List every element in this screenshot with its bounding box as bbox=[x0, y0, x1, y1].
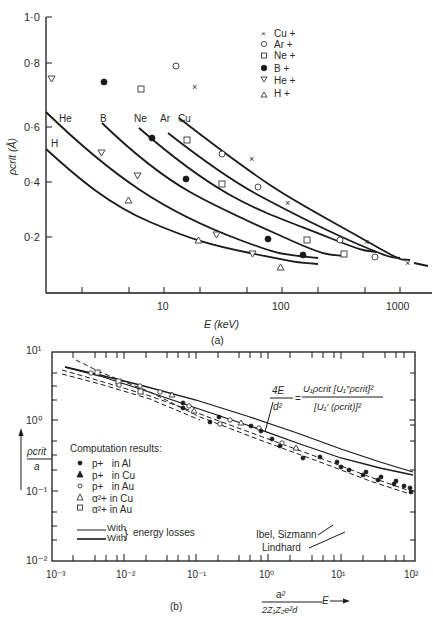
y-tick-label: 1·0 bbox=[24, 11, 40, 23]
formula-rhs-num: U₁ρcrit [U₁″ρcrit]² bbox=[303, 383, 374, 394]
x-tick-label: 10⁻¹ bbox=[187, 569, 207, 580]
svg-text:×: × bbox=[249, 154, 254, 164]
formula-lhs-num: 4E bbox=[272, 385, 285, 396]
x-tick-label: 1000 bbox=[386, 300, 410, 312]
x-tick-label: 10⁻² bbox=[116, 569, 136, 580]
curve-cu bbox=[179, 118, 410, 260]
panel-b: 10¹ 10⁰ 10⁻¹ 10⁻² 10⁻³ 10⁻² 10⁻¹ 10⁰ 10¹… bbox=[19, 344, 420, 615]
svg-text:×: × bbox=[285, 198, 290, 208]
x-tick-label: 100 bbox=[272, 300, 290, 312]
y-tick-label: 10⁻² bbox=[26, 554, 48, 566]
annotation-ibel-sizmann: Ibel, Sizmann bbox=[256, 529, 317, 540]
legend-item: B + bbox=[274, 63, 289, 74]
curve-dashed-extra bbox=[62, 374, 200, 420]
curve-h bbox=[46, 149, 318, 264]
legend-item: H + bbox=[274, 88, 290, 99]
formula-lhs-den: d² bbox=[273, 401, 283, 412]
curve-label-b: B bbox=[100, 113, 107, 124]
points-h bbox=[125, 197, 284, 270]
x-tick-label: 10¹ bbox=[331, 569, 346, 580]
legend-item: He + bbox=[274, 75, 296, 86]
x-axis-title-a: E (keV) bbox=[204, 318, 239, 330]
x-tick-label: 10⁻³ bbox=[46, 569, 66, 580]
x-tick-label: 10 bbox=[157, 300, 169, 312]
y-tick-label: 0·4 bbox=[24, 176, 40, 188]
y-tick-label: 10⁻¹ bbox=[26, 485, 48, 497]
svg-text:}: } bbox=[124, 527, 128, 541]
figure: 1·0 0·8 0·6 0·4 0·2 10 100 1000 E (keV) … bbox=[0, 0, 433, 626]
y-tick-label: 10⁰ bbox=[26, 414, 43, 426]
legend-item-b: p+ in Cu bbox=[92, 470, 135, 481]
svg-text:×: × bbox=[192, 82, 197, 92]
y-tick-label: 10¹ bbox=[26, 344, 42, 356]
y-axis-title-a: ρcrit (Å) bbox=[6, 138, 18, 176]
x-tick-label: 10² bbox=[404, 569, 419, 580]
curve-label-he: He bbox=[59, 113, 72, 124]
x-tick-label: 10⁰ bbox=[259, 569, 274, 580]
legend-item-b: p+ in Al bbox=[92, 458, 131, 469]
formula-annotation: 4E d² = U₁ρcrit [U₁″ρcrit]² [U₁′ (ρcrit)… bbox=[265, 383, 383, 432]
legend-item: Ar + bbox=[274, 39, 293, 50]
annotation-lindhard: Lindhard bbox=[262, 542, 301, 553]
legend-item-b: p+ in Au bbox=[92, 481, 134, 492]
x-axis-num-b: a² bbox=[276, 589, 286, 600]
curve-label-h: H bbox=[51, 138, 58, 149]
legend-a: × Cu + Ar + Ne + B + He + H + bbox=[261, 28, 296, 99]
svg-text:=: = bbox=[295, 393, 301, 404]
points-b bbox=[101, 79, 306, 258]
curve-label-ar: Ar bbox=[160, 113, 171, 124]
panel-label-b: (b) bbox=[170, 601, 182, 612]
y-axis-num-b: ρcrit bbox=[26, 446, 47, 457]
formula-pointer bbox=[265, 402, 273, 432]
panel-a: 1·0 0·8 0·6 0·4 0·2 10 100 1000 E (keV) … bbox=[6, 11, 432, 346]
y-tick-label: 0·8 bbox=[24, 57, 40, 69]
y-tick-label: 0·2 bbox=[24, 231, 40, 243]
svg-text:×: × bbox=[405, 258, 410, 268]
formula-rhs-den: [U₁′ (ρcrit)]² bbox=[313, 401, 362, 412]
legend-item: Ne + bbox=[274, 50, 296, 61]
legend-item-b: α²+ in Au bbox=[92, 504, 132, 515]
svg-text:×: × bbox=[364, 237, 369, 247]
y-tick-label: 0·6 bbox=[24, 121, 40, 133]
curve-cu-tail bbox=[414, 263, 428, 266]
panel-label-a: (a) bbox=[211, 334, 224, 346]
legend-item: Cu + bbox=[274, 28, 296, 39]
curve-label-cu: Cu bbox=[178, 113, 191, 124]
legend-title-b: Computation results: bbox=[70, 443, 162, 454]
points-ne bbox=[138, 86, 347, 257]
y-axis-den-b: a bbox=[34, 461, 40, 472]
x-axis-suffix-b: E bbox=[322, 595, 329, 606]
x-axis-den-b: 2Z₁Z₂e²d bbox=[261, 605, 298, 615]
legend-brace-label: energy losses bbox=[133, 527, 195, 538]
svg-text:×: × bbox=[261, 29, 266, 38]
curve-label-ne: Ne bbox=[134, 113, 147, 124]
legend-b: Computation results: p+ in Al p+ in Cu p… bbox=[70, 443, 195, 543]
legend-item-b: α²+ in Cu bbox=[92, 493, 133, 504]
